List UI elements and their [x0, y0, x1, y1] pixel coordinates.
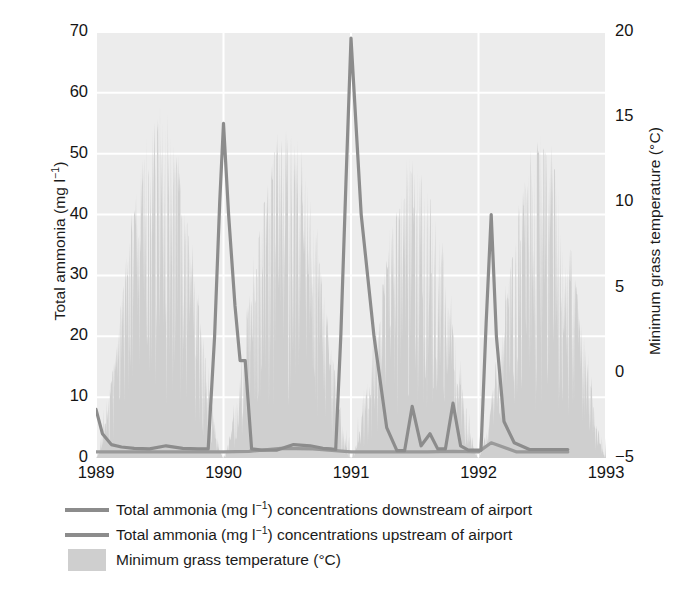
xticks-label: 1990 — [189, 463, 259, 482]
xticks-label: 1992 — [444, 463, 514, 482]
legend-item[interactable]: Total ammonia (mg l−1) concentrations do… — [63, 497, 663, 522]
y-axis-right-title: Minimum grass temperature (°C) — [646, 111, 664, 371]
legend-label-head: Total ammonia (mg l — [116, 526, 256, 543]
chart-legend: Total ammonia (mg l−1) concentrations do… — [63, 497, 663, 572]
yticks-left-label: 70 — [48, 21, 88, 40]
legend-item-label: Total ammonia (mg l−1) concentrations up… — [110, 526, 512, 544]
legend-key-2 — [63, 533, 110, 537]
yticks-right-label: 15 — [615, 106, 659, 125]
legend-item[interactable]: Minimum grass temperature (°C) — [63, 547, 663, 572]
legend-key-3 — [63, 549, 110, 571]
xticks-label: 1989 — [61, 463, 131, 482]
yticks-left-label: 50 — [48, 143, 88, 162]
legend-label-exponent: −1 — [256, 523, 268, 535]
yticks-right-label: 5 — [615, 277, 659, 296]
figure-root: Total ammonia (mg l−1) Minimum grass tem… — [0, 0, 689, 602]
legend-area-swatch — [68, 549, 106, 571]
legend-line-swatch — [65, 508, 109, 512]
legend-label-head: Total ammonia (mg l — [116, 501, 256, 518]
legend-item-label: Total ammonia (mg l−1) concentrations do… — [110, 501, 532, 519]
yticks-left-label: 30 — [48, 264, 88, 283]
legend-item[interactable]: Total ammonia (mg l−1) concentrations up… — [63, 522, 663, 547]
y-axis-left-title-head: Total ammonia (mg l — [51, 179, 68, 320]
xticks-label: 1991 — [316, 463, 386, 482]
legend-label-tail: ) concentrations upstream of airport — [268, 526, 513, 543]
legend-line-swatch — [65, 533, 109, 537]
yticks-right-label: 0 — [615, 362, 659, 381]
yticks-left-label: 20 — [48, 325, 88, 344]
yticks-left-label: 60 — [48, 82, 88, 101]
y-axis-left-title-exponent: −1 — [49, 167, 61, 179]
yticks-left-label: 40 — [48, 204, 88, 223]
chart-plot — [0, 0, 689, 478]
yticks-right-label: 10 — [615, 191, 659, 210]
chart-area: Total ammonia (mg l−1) Minimum grass tem… — [0, 0, 689, 478]
y-axis-left-title-tail: ) — [51, 162, 68, 167]
legend-label-exponent: −1 — [256, 498, 268, 510]
legend-item-label: Minimum grass temperature (°C) — [110, 551, 341, 569]
yticks-right-label: 20 — [615, 21, 659, 40]
legend-key-1 — [63, 508, 110, 512]
xticks-label: 1993 — [571, 463, 641, 482]
yticks-left-label: 10 — [48, 386, 88, 405]
legend-label-tail: ) concentrations downstream of airport — [268, 501, 532, 518]
